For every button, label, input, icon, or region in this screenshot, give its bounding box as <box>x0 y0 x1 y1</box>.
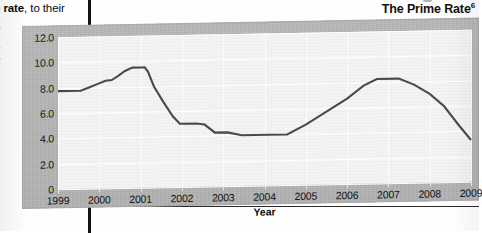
x-tick-mark-2009 <box>471 182 472 186</box>
x-tick-mark-2004 <box>265 186 266 190</box>
x-tick-mark-2003 <box>223 186 224 190</box>
gridline-v-2009 <box>471 30 472 182</box>
plot-area: 02.04.06.08.010.012.0 199920002001200220… <box>58 30 471 190</box>
y-tick-label-6.0: 6.0 <box>40 107 54 119</box>
body-text-bold-fragment: e rate <box>0 2 24 14</box>
x-tick-label-2004: 2004 <box>253 190 276 202</box>
x-tick-mark-2007 <box>388 183 389 187</box>
x-tick-mark-2000 <box>99 189 100 193</box>
x-tick-label-1999: 1999 <box>47 194 70 206</box>
body-text-rest-fragment: , to their <box>24 2 65 14</box>
figure-title-text: The Prime Rate <box>382 2 471 16</box>
x-tick-label-2003: 2003 <box>212 191 235 203</box>
chart-panel: 02.04.06.08.010.012.0 199920002001200220… <box>22 18 479 209</box>
x-tick-label-2009: 2009 <box>460 187 482 199</box>
x-tick-mark-2002 <box>182 187 183 191</box>
y-tick-label-10.0: 10.0 <box>34 57 54 69</box>
figure-title-footnote: 6 <box>471 1 475 10</box>
x-tick-label-2007: 2007 <box>377 188 400 200</box>
y-tick-label-2.0: 2.0 <box>40 158 54 170</box>
x-tick-label-2001: 2001 <box>129 193 152 205</box>
x-axis-title: Year <box>253 205 275 217</box>
x-tick-mark-2006 <box>347 184 348 188</box>
x-tick-label-2002: 2002 <box>171 192 194 204</box>
y-tick-label-4.0: 4.0 <box>40 133 54 145</box>
x-tick-mark-2005 <box>306 185 307 189</box>
x-tick-mark-2001 <box>141 188 142 192</box>
x-tick-mark-2008 <box>430 183 431 187</box>
x-tick-label-2006: 2006 <box>336 189 359 201</box>
x-tick-label-2005: 2005 <box>295 190 318 202</box>
figure-title: The Prime Rate6 <box>382 2 475 16</box>
y-tick-label-8.0: 8.0 <box>40 82 54 94</box>
y-tick-label-12.0: 12.0 <box>34 31 54 43</box>
x-tick-label-2000: 2000 <box>88 193 111 205</box>
x-tick-mark-1999 <box>58 189 59 193</box>
series-plot <box>58 30 471 190</box>
x-tick-label-2008: 2008 <box>418 187 441 199</box>
prime-rate-line <box>58 61 471 147</box>
